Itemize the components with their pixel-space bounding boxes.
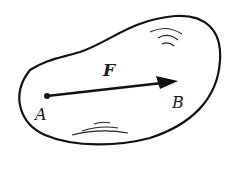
point-a-dot [44, 93, 50, 99]
point-b-label: B [171, 93, 184, 112]
texture-marks-bottom [72, 122, 128, 135]
texture-marks-top [150, 28, 182, 46]
force-vector-arrowhead [156, 76, 178, 89]
force-vector-line [47, 83, 162, 96]
force-label: F [102, 60, 117, 80]
point-a-label: A [33, 105, 47, 124]
diagram-canvas: F A B [0, 0, 234, 175]
diagram: F A B [0, 0, 234, 175]
rigid-body-outline [19, 16, 220, 145]
